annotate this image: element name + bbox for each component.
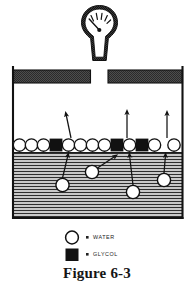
water-molecule bbox=[85, 165, 98, 178]
glycol-molecule bbox=[136, 139, 149, 152]
legend-glycol-bullet bbox=[86, 253, 89, 256]
water-molecule bbox=[126, 185, 139, 198]
water-molecule bbox=[56, 178, 69, 191]
figure-caption: Figure 6-3 bbox=[0, 264, 194, 282]
legend-glycol-swatch bbox=[66, 249, 79, 262]
molecule-surface-row bbox=[13, 139, 180, 152]
legend-water-bullet bbox=[86, 236, 89, 239]
legend-water-swatch bbox=[66, 231, 79, 244]
water-molecule bbox=[62, 139, 74, 151]
escape-arrow bbox=[66, 114, 71, 138]
glycol-molecule bbox=[50, 139, 63, 152]
legend-glycol-label: GLYCOL bbox=[93, 251, 118, 257]
pressure-gauge-icon bbox=[82, 6, 118, 61]
legend-water-label: WATER bbox=[93, 234, 115, 240]
water-molecule bbox=[13, 139, 25, 151]
water-molecule bbox=[98, 139, 110, 151]
vessel-lid-left bbox=[14, 70, 91, 83]
diagram-canvas bbox=[0, 0, 194, 287]
vessel-lid-right bbox=[108, 70, 183, 83]
water-molecule bbox=[37, 139, 49, 151]
water-molecule bbox=[168, 139, 180, 151]
glycol-molecule bbox=[111, 139, 124, 152]
water-molecule bbox=[148, 139, 160, 151]
figure-6-3: WATER GLYCOL Figure 6-3 bbox=[0, 0, 194, 287]
escape-arrows bbox=[66, 112, 167, 138]
water-molecule bbox=[25, 139, 37, 151]
water-molecule bbox=[157, 173, 170, 186]
water-molecule bbox=[123, 139, 135, 151]
liquid-body bbox=[13, 152, 182, 218]
water-molecule bbox=[86, 139, 98, 151]
water-molecule bbox=[74, 139, 86, 151]
legend bbox=[66, 231, 89, 261]
